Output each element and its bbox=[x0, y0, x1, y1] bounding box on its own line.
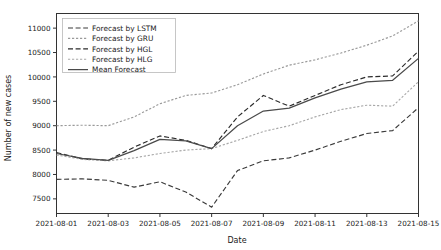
legend-label-4: Forecast by HLG bbox=[92, 55, 153, 64]
legend-label-2: Forecast by GRU bbox=[92, 34, 153, 43]
y-tick-label: 8000 bbox=[32, 170, 51, 179]
x-tick-label: 2021-08-11 bbox=[294, 219, 336, 228]
x-axis-title: Date bbox=[227, 236, 246, 245]
forecast-line-chart: 75008000850090009500100001050011000 2021… bbox=[0, 0, 441, 250]
legend-label-5: Mean Forecast bbox=[92, 65, 146, 74]
y-tick-label: 11000 bbox=[28, 24, 51, 33]
y-tick-label: 9000 bbox=[32, 121, 51, 130]
legend-label-1: Forecast by LSTM bbox=[92, 24, 157, 33]
figure-canvas: 75008000850090009500100001050011000 2021… bbox=[0, 0, 441, 250]
y-tick-label: 9500 bbox=[32, 97, 51, 106]
x-tick-label: 2021-08-07 bbox=[191, 219, 233, 228]
y-axis-title: Number of new cases bbox=[4, 75, 13, 162]
x-tick-label: 2021-08-09 bbox=[242, 219, 284, 228]
y-tick-label: 10500 bbox=[28, 48, 51, 57]
x-tick-label: 2021-08-03 bbox=[87, 219, 129, 228]
x-tick-label: 2021-08-05 bbox=[139, 219, 181, 228]
chart-legend: Forecast by LSTMForecast by GRUForecast … bbox=[63, 19, 176, 75]
legend-label-3: Forecast by HGL bbox=[92, 45, 153, 54]
y-tick-label: 8500 bbox=[32, 146, 51, 155]
x-tick-label: 2021-08-13 bbox=[346, 219, 388, 228]
y-tick-label: 10000 bbox=[28, 73, 51, 82]
y-tick-label: 7500 bbox=[32, 194, 51, 203]
x-tick-label: 2021-08-15 bbox=[398, 219, 440, 228]
x-tick-label: 2021-08-01 bbox=[36, 219, 78, 228]
